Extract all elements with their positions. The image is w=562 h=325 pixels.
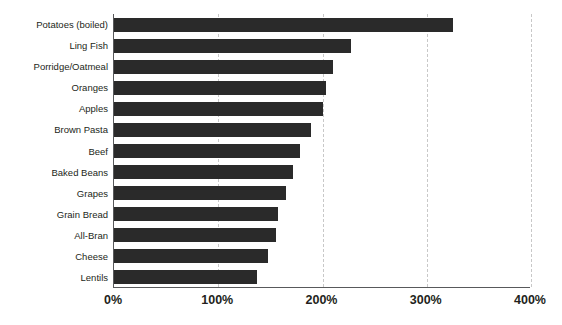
bar	[114, 207, 278, 221]
bar	[114, 228, 276, 242]
bar	[114, 81, 326, 95]
x-axis-tick-labels: 0%100%200%300%400%	[0, 292, 562, 314]
x-tick-label: 400%	[514, 292, 546, 308]
category-label: Baked Beans	[0, 167, 108, 178]
bar-row	[114, 77, 530, 98]
bar-row	[114, 246, 530, 267]
bar	[114, 165, 293, 179]
category-label: All-Bran	[0, 230, 108, 241]
category-label: Porridge/Oatmeal	[0, 61, 108, 72]
bar	[114, 186, 286, 200]
bar	[114, 144, 300, 158]
category-label: Oranges	[0, 82, 108, 93]
category-label: Potatoes (boiled)	[0, 19, 108, 30]
bar-series	[114, 14, 530, 287]
category-axis-labels: Potatoes (boiled)Ling FishPorridge/Oatme…	[0, 14, 108, 288]
category-label: Grain Bread	[0, 209, 108, 220]
category-label: Grapes	[0, 188, 108, 199]
bar-row	[114, 140, 530, 161]
bar	[114, 270, 257, 284]
x-tick-label: 300%	[410, 292, 442, 308]
x-tick-label: 200%	[306, 292, 338, 308]
bar	[114, 60, 333, 74]
bar	[114, 249, 268, 263]
bar-row	[114, 14, 530, 35]
bar-chart: Potatoes (boiled)Ling FishPorridge/Oatme…	[0, 0, 562, 325]
bar-row	[114, 119, 530, 140]
category-label: Ling Fish	[0, 40, 108, 51]
bar	[114, 102, 323, 116]
bar	[114, 18, 453, 32]
bar-row	[114, 162, 530, 183]
bar-row	[114, 56, 530, 77]
bar-row	[114, 183, 530, 204]
bar	[114, 123, 311, 137]
bar-row	[114, 267, 530, 288]
gridline	[531, 14, 532, 287]
bar-row	[114, 98, 530, 119]
x-tick-label: 0%	[104, 292, 122, 308]
category-label: Cheese	[0, 251, 108, 262]
category-label: Apples	[0, 103, 108, 114]
bar-row	[114, 225, 530, 246]
bar-row	[114, 35, 530, 56]
category-label: Lentils	[0, 272, 108, 283]
bar	[114, 39, 351, 53]
category-label: Beef	[0, 146, 108, 157]
bar-row	[114, 204, 530, 225]
x-tick-label: 100%	[201, 292, 233, 308]
category-label: Brown Pasta	[0, 124, 108, 135]
plot-area	[113, 14, 530, 288]
